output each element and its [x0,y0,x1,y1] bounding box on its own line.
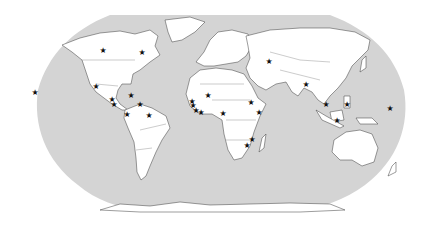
star-marker-icon: ★ [110,100,117,109]
star-marker-icon: ★ [92,82,99,91]
star-marker-icon: ★ [123,110,130,119]
star-marker-icon: ★ [243,141,250,150]
new-zealand [388,162,396,176]
star-marker-icon: ★ [31,88,38,97]
star-marker-icon: ★ [99,46,106,55]
star-marker-icon: ★ [247,98,254,107]
star-marker-icon: ★ [197,108,204,117]
world-map: ★★★★★★★★★★★★★★★★★★★★★★★★★★ [0,0,443,239]
star-marker-icon: ★ [255,108,262,117]
star-marker-icon: ★ [127,91,134,100]
star-marker-icon: ★ [333,116,340,125]
star-marker-icon: ★ [145,111,152,120]
star-marker-icon: ★ [204,91,211,100]
star-marker-icon: ★ [219,109,226,118]
star-marker-icon: ★ [386,104,393,113]
star-marker-icon: ★ [322,100,329,109]
star-marker-icon: ★ [138,48,145,57]
star-marker-icon: ★ [265,57,272,66]
star-marker-icon: ★ [302,80,309,89]
star-marker-icon: ★ [343,100,350,109]
star-marker-icon: ★ [136,100,143,109]
